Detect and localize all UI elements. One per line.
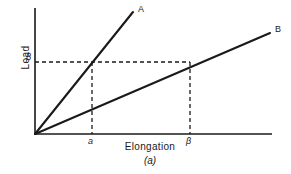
series-line-a (35, 12, 133, 134)
y-axis-tick-label-0: β (26, 52, 31, 62)
series-label-a: A (138, 4, 144, 14)
series-line-b (35, 33, 270, 134)
x-axis-tick-label-1: β (186, 136, 191, 146)
series-label-b: B (275, 24, 281, 34)
x-axis-label: Elongation (110, 141, 190, 152)
figure-sub-label: (a) (120, 155, 180, 166)
figure-canvas: Load Elongation (a) β a β A B (0, 0, 291, 174)
x-axis-tick-label-0: a (88, 136, 93, 146)
